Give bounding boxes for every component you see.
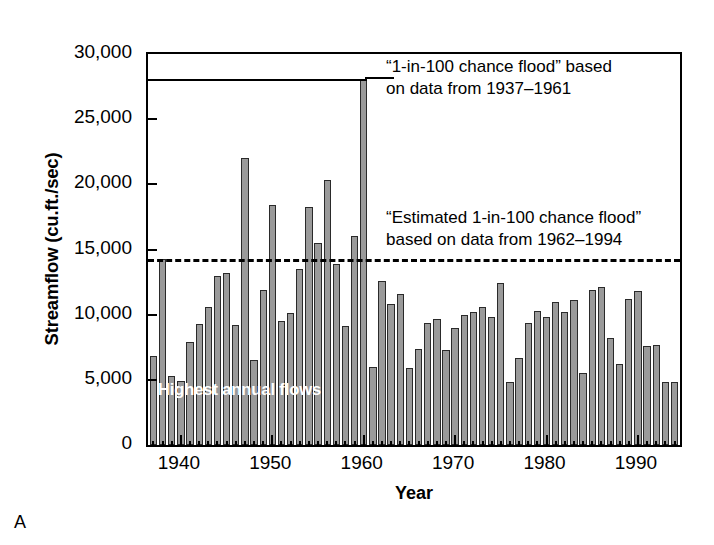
x-tick-mark-minor [235,441,237,446]
x-tick-mark-minor [408,441,410,446]
x-axis-tick-labels: 194019501960197019801990 [146,452,682,478]
bar [643,346,650,445]
x-tick-mark-minor [445,441,447,446]
bar [442,350,449,445]
x-tick-mark-minor [564,441,566,446]
x-tick-mark-minor [189,441,191,446]
x-tick-mark-minor [655,441,657,446]
annotation-1962-1994: “Estimated 1-in-100 chance flood” based … [386,207,641,251]
annotation-1937-1961-line1: “1-in-100 chance flood” based [386,56,612,78]
bar [223,273,230,445]
bar [534,311,541,445]
x-tick-mark-minor [509,441,511,446]
bar [589,290,596,445]
y-tick-label: 15,000 [26,238,132,257]
bar [387,304,394,445]
annotation-1937-1961: “1-in-100 chance flood” based on data fr… [386,56,612,100]
bar [579,373,586,445]
x-tick-mark-minor [427,441,429,446]
x-tick-mark-minor [216,441,218,446]
bar [342,326,349,445]
x-tick-mark-minor [381,441,383,446]
bar [424,323,431,446]
x-tick-mark-minor [299,441,301,446]
x-tick-mark-major [363,435,365,446]
y-tick-label: 30,000 [26,42,132,61]
bar [378,281,385,445]
series-caption: Highest annual flows [158,380,321,399]
x-tick-label: 1960 [317,452,407,474]
x-tick-mark-minor [527,441,529,446]
bar [451,328,458,445]
x-tick-mark-minor [372,441,374,446]
x-tick-mark-minor [591,441,593,446]
x-tick-label: 1940 [134,452,224,474]
x-tick-mark-minor [536,441,538,446]
x-tick-mark-minor [280,441,282,446]
y-tick-mark [147,118,157,120]
bar [461,315,468,445]
x-tick-mark-minor [518,441,520,446]
x-tick-label: 1990 [591,452,681,474]
bar [296,269,303,445]
y-tick-label: 10,000 [26,303,132,322]
x-tick-mark-minor [619,441,621,446]
bar [634,291,641,445]
x-tick-mark-minor [207,441,209,446]
bar [525,323,532,446]
bar [241,158,248,445]
bar [360,79,367,445]
bar [214,276,221,445]
bar [324,180,331,445]
bar [415,349,422,445]
x-tick-label: 1950 [225,452,315,474]
bar [397,294,404,445]
bar [561,312,568,445]
x-tick-mark-minor [555,441,557,446]
x-tick-mark-major [180,435,182,446]
x-tick-mark-minor [354,441,356,446]
bar [369,367,376,445]
x-tick-mark-minor [390,441,392,446]
x-tick-mark-minor [290,441,292,446]
x-tick-label: 1980 [500,452,590,474]
bar [150,356,157,445]
x-tick-label: 1970 [408,452,498,474]
bar [269,205,276,445]
bar [515,358,522,445]
x-tick-mark-minor [573,441,575,446]
bar [250,360,257,445]
bar [598,287,605,445]
y-tick-mark [147,379,157,381]
x-axis-title: Year [146,483,682,504]
x-tick-mark-minor [610,441,612,446]
annotation-1962-1994-line1: “Estimated 1-in-100 chance flood” [386,207,641,229]
y-tick-mark [147,183,157,185]
x-tick-mark-minor [664,441,666,446]
x-tick-mark-major [546,435,548,446]
bar [406,368,413,445]
panel-letter: A [14,512,26,533]
bar [497,283,504,445]
bar [479,307,486,445]
x-tick-mark-minor [317,441,319,446]
bar [607,338,614,445]
x-tick-mark-minor [335,441,337,446]
bar [470,312,477,445]
threshold-line-1962-1994 [148,259,680,262]
x-tick-mark-minor [436,441,438,446]
bar [314,243,321,445]
x-tick-mark-minor [491,441,493,446]
x-tick-mark-minor [674,441,676,446]
y-tick-mark [147,314,157,316]
bar [653,345,660,445]
x-tick-mark-minor [162,441,164,446]
x-tick-mark-minor [582,441,584,446]
x-tick-mark-minor [226,441,228,446]
bar [305,207,312,446]
x-tick-mark-minor [646,441,648,446]
bar [616,364,623,445]
bar [662,382,669,445]
bar [333,264,340,445]
bar [159,259,166,445]
